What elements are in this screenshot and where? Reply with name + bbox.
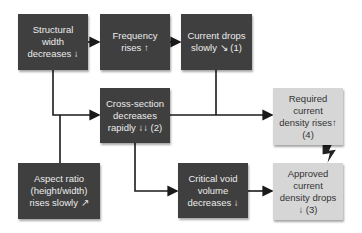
node-label: Approved current density drops ↓ (3)	[280, 168, 337, 216]
node-approved-density: Approved current density drops ↓ (3)	[273, 163, 343, 220]
node-cross-section: Cross-section decreases rapidly ↓↓ (2)	[100, 88, 170, 143]
arrow-cross-section-to-void	[135, 143, 177, 191]
node-current-drops: Current drops slowly ↘ (1)	[181, 14, 252, 70]
arrow-structural-to-cross-section	[53, 70, 99, 115]
node-label: Aspect ratio (height/width) rises slowly…	[29, 173, 88, 209]
node-structural-width: Structural width decreases ↓	[18, 14, 88, 70]
node-label: Current drops slowly ↘ (1)	[187, 30, 245, 54]
node-frequency: Frequency rises ↑	[100, 14, 170, 70]
node-label: Required current density rises↑ (4)	[279, 93, 337, 141]
node-label: Structural width decreases ↓	[27, 24, 78, 60]
node-label: Critical void volume decreases ↓	[187, 173, 238, 209]
node-required-density: Required current density rises↑ (4)	[273, 88, 343, 145]
node-label: Cross-section decreases rapidly ↓↓ (2)	[106, 98, 164, 134]
node-critical-void: Critical void volume decreases ↓	[178, 163, 248, 218]
node-aspect-ratio: Aspect ratio (height/width) rises slowly…	[18, 163, 100, 219]
node-label: Frequency rises ↑	[113, 30, 158, 54]
